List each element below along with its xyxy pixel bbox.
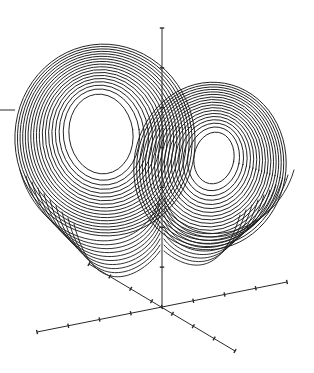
attractor-plot bbox=[0, 0, 314, 373]
axis-tick bbox=[130, 287, 132, 291]
lorenz-attractor-figure bbox=[0, 0, 314, 373]
axis-tick bbox=[171, 312, 173, 316]
axis-tick bbox=[213, 337, 215, 341]
axis-tick bbox=[193, 299, 194, 303]
axis-tick bbox=[99, 317, 100, 321]
axis-tick bbox=[234, 349, 236, 353]
axis-tick bbox=[68, 324, 69, 328]
axis-tick bbox=[255, 286, 256, 290]
axis-tick bbox=[287, 280, 288, 284]
axis-tick bbox=[224, 292, 225, 296]
axis-tick bbox=[192, 324, 194, 328]
axis-tick bbox=[88, 262, 90, 266]
axis-tick bbox=[109, 275, 111, 279]
axis-tick bbox=[130, 311, 131, 315]
axis-tick bbox=[150, 299, 152, 303]
axis-tick bbox=[37, 330, 38, 334]
